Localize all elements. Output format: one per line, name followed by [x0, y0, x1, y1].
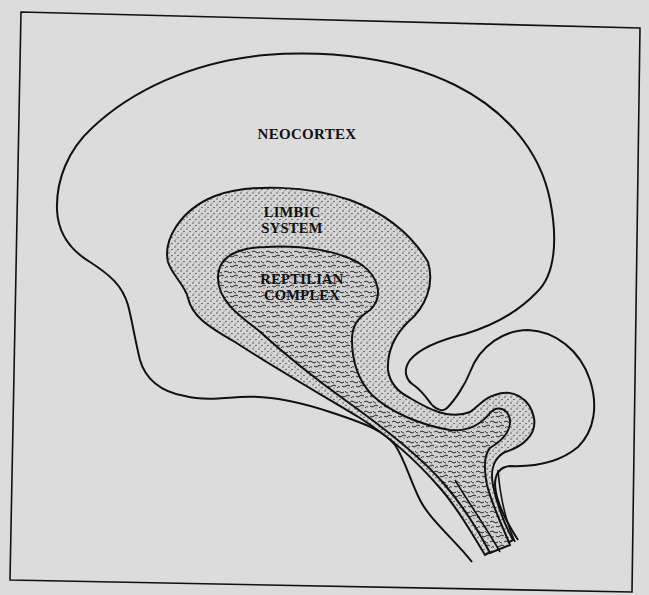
- figure-stage: NEOCORTEX LIMBIC SYSTEM REPTILIAN COMPLE…: [0, 0, 649, 595]
- neocortex-notch: [432, 372, 470, 410]
- reptilian-label-line1: REPTILIAN: [260, 271, 343, 287]
- limbic-label: LIMBIC SYSTEM: [261, 204, 322, 236]
- neocortex-label: NEOCORTEX: [258, 126, 357, 142]
- reptilian-label-line2: COMPLEX: [260, 287, 343, 303]
- limbic-label-line1: LIMBIC: [261, 204, 322, 220]
- reptilian-label: REPTILIAN COMPLEX: [260, 271, 343, 303]
- neocortex-label-text: NEOCORTEX: [258, 126, 357, 142]
- limbic-label-line2: SYSTEM: [261, 220, 322, 236]
